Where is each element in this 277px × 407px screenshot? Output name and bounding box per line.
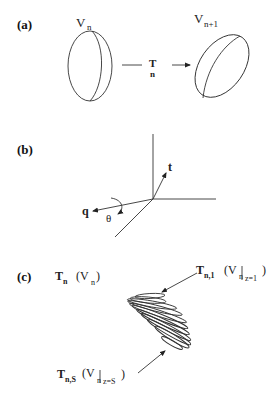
whole-t-label: T <box>55 269 63 283</box>
panel-c-label: (c) <box>17 269 31 284</box>
transform-label: T <box>149 57 157 69</box>
bottom-t-label: T <box>57 367 65 381</box>
bottom-cond: z=S <box>103 377 116 386</box>
volume-vn1-label: V <box>194 11 204 26</box>
volume-vn1 <box>184 25 260 108</box>
figure: (a) V n T n V n+1 (b) q t <box>0 0 277 407</box>
whole-close: ) <box>96 269 100 283</box>
panel-a: (a) V n T n V n+1 <box>17 11 260 107</box>
theta-label: θ <box>106 212 111 224</box>
volume-vn-subscript: n <box>87 22 92 32</box>
top-cond: z=1 <box>245 274 257 283</box>
bottom-v-label: (V <box>82 366 95 380</box>
t-label: t <box>168 160 172 174</box>
t-vector <box>153 173 166 199</box>
panel-c: (c) T n (V n ) T n,1 (V n z=1 ) <box>17 263 266 386</box>
top-t-label: T <box>196 263 204 277</box>
volume-vn1-subscript: n+1 <box>204 19 218 29</box>
whole-t-sub: n <box>63 277 68 286</box>
whole-v-sub: n <box>91 278 95 287</box>
top-slice-pointer <box>162 273 197 292</box>
bottom-close: ) <box>121 367 125 381</box>
q-vector <box>93 199 153 211</box>
volume-vn <box>68 31 112 101</box>
coordinate-axes <box>115 134 216 237</box>
panel-b-label: (b) <box>17 142 33 157</box>
top-close: ) <box>262 263 266 277</box>
volume-vn-label: V <box>76 15 86 30</box>
panel-b: (b) q t θ <box>17 134 216 237</box>
transform-subscript: n <box>150 69 155 79</box>
diagram-canvas: (a) V n T n V n+1 (b) q t <box>0 0 277 407</box>
whole-v-label: (V <box>76 269 89 283</box>
q-label: q <box>82 204 89 218</box>
top-t-sub: n,1 <box>204 271 214 280</box>
bottom-slice-pointer <box>138 351 165 373</box>
top-v-label: (V <box>224 263 237 277</box>
bottom-t-sub: n,S <box>65 375 76 384</box>
panel-a-label: (a) <box>17 17 32 32</box>
slice-stack <box>127 293 192 351</box>
